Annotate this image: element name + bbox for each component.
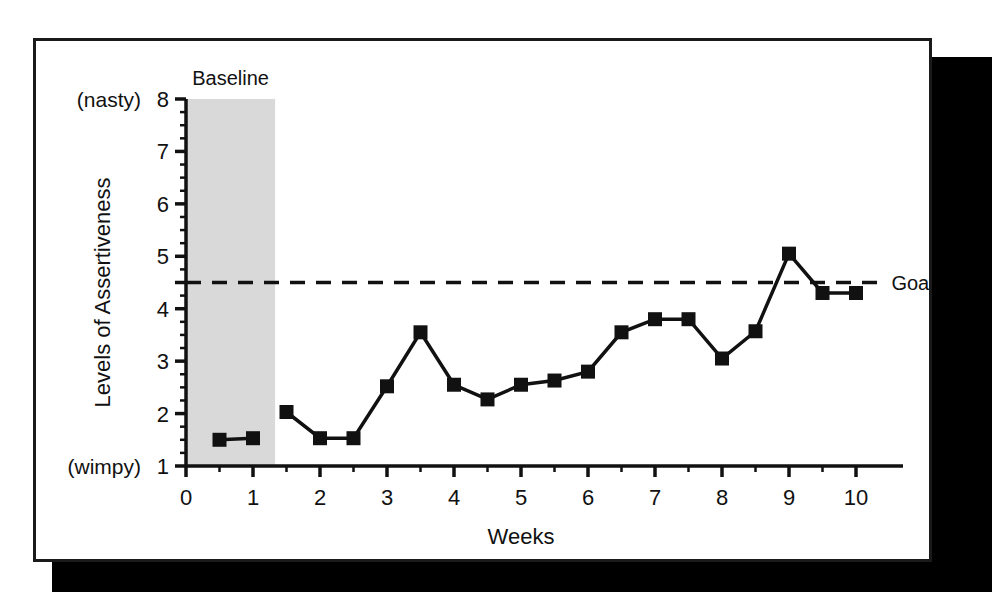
x-tick-label: 8 xyxy=(716,485,728,510)
x-tick-label: 5 xyxy=(515,485,527,510)
data-point-marker xyxy=(380,379,394,393)
x-tick-label: 0 xyxy=(180,485,192,510)
data-point-marker xyxy=(313,431,327,445)
data-point-marker xyxy=(581,365,595,379)
y-axis-title: Levels of Assertiveness xyxy=(90,178,115,408)
data-point-marker xyxy=(548,374,562,388)
data-point-marker xyxy=(246,431,260,445)
y-axis-bottom-annotation: (wimpy) xyxy=(68,455,142,478)
x-tick-label: 7 xyxy=(649,485,661,510)
y-tick-label: 1 xyxy=(157,454,169,479)
goal-line-label: Goal xyxy=(891,272,929,294)
y-tick-label: 6 xyxy=(157,192,169,217)
x-tick-label: 9 xyxy=(783,485,795,510)
data-point-marker xyxy=(481,392,495,406)
data-point-marker xyxy=(715,352,729,366)
phase-label-baseline: Baseline xyxy=(192,67,269,89)
data-point-marker xyxy=(615,325,629,339)
data-point-marker xyxy=(280,405,294,419)
y-tick-label: 5 xyxy=(157,244,169,269)
figure-container: BaselineGoal12345678012345678910WeeksLev… xyxy=(0,0,992,615)
data-point-marker xyxy=(682,312,696,326)
data-point-marker xyxy=(816,286,830,300)
x-tick-label: 4 xyxy=(448,485,460,510)
data-point-marker xyxy=(414,325,428,339)
x-tick-label: 1 xyxy=(247,485,259,510)
x-tick-label: 2 xyxy=(314,485,326,510)
y-axis-top-annotation: (nasty) xyxy=(77,88,141,111)
x-tick-label: 3 xyxy=(381,485,393,510)
data-point-marker xyxy=(782,247,796,261)
data-point-marker xyxy=(447,378,461,392)
data-point-marker xyxy=(514,378,528,392)
data-point-marker xyxy=(213,433,227,447)
y-tick-label: 2 xyxy=(157,402,169,427)
x-axis-title: Weeks xyxy=(488,524,555,549)
figure-frame: BaselineGoal12345678012345678910WeeksLev… xyxy=(33,38,932,562)
data-point-marker xyxy=(347,431,361,445)
y-tick-label: 7 xyxy=(157,139,169,164)
y-tick-label: 8 xyxy=(157,87,169,112)
y-tick-label: 4 xyxy=(157,297,169,322)
data-point-marker xyxy=(648,312,662,326)
y-tick-label: 3 xyxy=(157,349,169,374)
x-tick-label: 6 xyxy=(582,485,594,510)
data-point-marker xyxy=(849,286,863,300)
x-tick-label: 10 xyxy=(844,485,868,510)
data-point-marker xyxy=(749,324,763,338)
assertiveness-line-chart: BaselineGoal12345678012345678910WeeksLev… xyxy=(36,41,929,559)
